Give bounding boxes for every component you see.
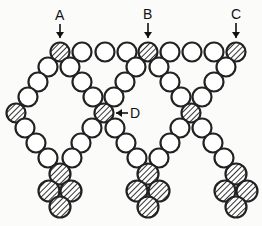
hatched-bead [138, 197, 159, 218]
arrowhead-icon [144, 32, 152, 38]
arrowhead-icon [116, 109, 122, 117]
open-bead [96, 43, 115, 62]
bead-chain [7, 43, 246, 168]
bead-pattern-diagram: ABCD [0, 0, 262, 226]
label-b: B [143, 6, 152, 22]
open-bead [183, 43, 202, 62]
open-bead [105, 88, 124, 107]
label-d: D [130, 105, 140, 121]
open-bead [193, 88, 212, 107]
hatched-cluster [215, 164, 258, 218]
open-bead [19, 88, 38, 107]
hatched-bead [226, 197, 247, 218]
label-a: A [55, 7, 65, 23]
arrowhead-icon [56, 32, 64, 38]
hatched-cluster [39, 164, 82, 218]
label-c: C [231, 6, 241, 22]
callout-labels: ABCD [55, 6, 241, 121]
hatched-bead [50, 197, 71, 218]
hatched-cluster [127, 164, 170, 218]
arrowhead-icon [232, 32, 240, 38]
bead-clusters [39, 164, 258, 218]
